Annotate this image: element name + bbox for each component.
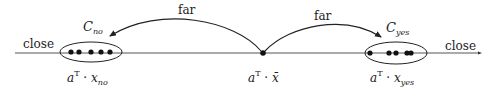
data-point bbox=[98, 49, 103, 54]
data-point bbox=[88, 49, 93, 54]
data-point bbox=[107, 49, 112, 54]
close-label-right: close bbox=[445, 39, 476, 53]
data-point bbox=[386, 50, 391, 55]
far-arrow-right bbox=[265, 24, 381, 51]
axis-arrow-icon bbox=[478, 52, 482, 55]
cluster-no-dots bbox=[68, 49, 112, 54]
data-point bbox=[76, 49, 81, 54]
far-arrow-left bbox=[110, 19, 261, 51]
projection-no-label: aT · xno bbox=[67, 69, 108, 87]
data-point bbox=[408, 50, 413, 55]
far-label-right: far bbox=[314, 9, 332, 23]
data-point bbox=[393, 50, 398, 55]
data-point bbox=[367, 50, 372, 55]
mean-point bbox=[260, 50, 266, 56]
cluster-yes-label: Cyes bbox=[386, 20, 409, 37]
projection-mean-label: aT · x̄ bbox=[248, 69, 279, 85]
projection-yes-label: aT · xyes bbox=[370, 69, 414, 87]
cluster-no-label: Cno bbox=[83, 19, 103, 36]
far-label-left: far bbox=[178, 3, 196, 17]
data-point bbox=[68, 49, 73, 54]
close-label-left: close bbox=[23, 37, 54, 51]
projection-diagram: close close far far Cno Cyes aT · xno aT… bbox=[0, 0, 488, 90]
